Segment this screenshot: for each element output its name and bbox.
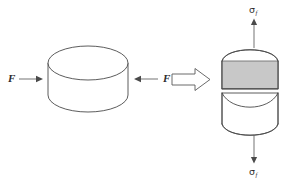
right-force-arrow [134,76,158,82]
transition-hollow-arrow [172,69,210,91]
figure-canvas: F F σf σf [0,0,305,181]
diagram-vector-layer [0,0,305,181]
left-disc-group [48,46,128,112]
force-label-left: F [8,73,15,84]
left-force-arrow [19,76,43,82]
lower-half-outline [222,93,278,135]
force-label-right: F [163,73,170,84]
right-disc-group [222,50,278,136]
top-tension-arrow [251,19,257,49]
left-disc-top-ellipse [48,46,128,80]
bottom-tension-arrow [251,135,257,164]
tensile-fracture-band [222,61,278,89]
stress-label-bottom: σf [249,167,257,177]
stress-subscript-bottom: f [255,171,257,178]
stress-label-top: σf [249,5,257,15]
stress-subscript-top: f [255,9,257,16]
